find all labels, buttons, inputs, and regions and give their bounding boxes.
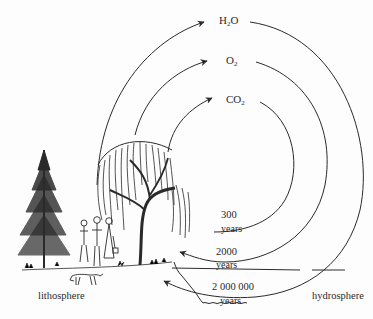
o2-label: O2 — [226, 55, 237, 68]
h2o-base: H — [219, 14, 227, 26]
co2-duration: 300 — [221, 210, 237, 221]
dog — [70, 274, 103, 285]
willow-tree — [98, 142, 190, 265]
h2o-tail: O — [230, 14, 238, 26]
h2o-duration: 2 000 000 — [212, 282, 254, 293]
cycle-diagram: H2O O2 CO2 300 years 2000 years 2 000 00… — [0, 0, 373, 319]
o2-unit: years — [216, 260, 237, 270]
lithosphere-label: lithosphere — [38, 291, 85, 302]
h2o-unit: years — [220, 296, 241, 306]
h2o-label: H2O — [219, 15, 238, 28]
hydrosphere-label: hydrosphere — [312, 291, 364, 302]
co2-label: CO2 — [226, 94, 245, 107]
spruce-tree — [18, 150, 70, 268]
diagram-graphics — [0, 0, 373, 319]
o2-duration: 2000 — [216, 247, 237, 258]
co2-base: CO — [226, 93, 241, 105]
grass — [25, 258, 166, 268]
co2-unit: years — [221, 224, 242, 234]
co2-sub: 2 — [241, 99, 245, 107]
o2-base: O — [226, 54, 234, 66]
o2-sub: 2 — [234, 60, 238, 68]
